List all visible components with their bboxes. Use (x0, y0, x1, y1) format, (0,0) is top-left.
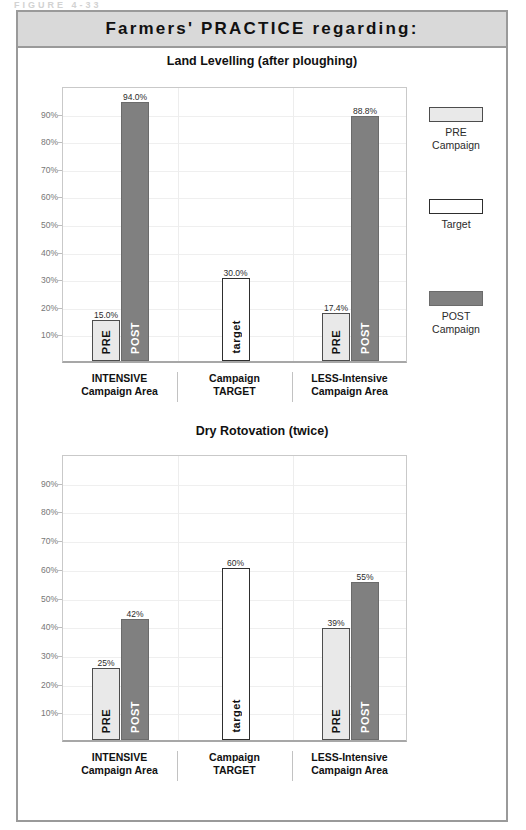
legend-label: PRE (410, 126, 502, 139)
x-axis-category-label: LESS-IntensiveCampaign Area (311, 751, 388, 777)
x-axis-separator (292, 751, 293, 781)
bar-series-label: POST (359, 701, 371, 733)
y-axis-tick-label: 50% (41, 594, 58, 604)
legend-label: POST (410, 310, 502, 323)
bar-pre[interactable]: PRE (322, 313, 350, 361)
category-separator (178, 88, 179, 361)
category-separator (293, 88, 294, 361)
legend-item-post[interactable]: POSTCampaign (410, 291, 502, 336)
y-axis-tick-label: 20% (41, 680, 58, 690)
y-axis-tick-label: 70% (41, 165, 58, 175)
bar-series-label: PRE (330, 709, 342, 733)
y-axis-tick-label: 40% (41, 248, 58, 258)
y-axis: 10%20%30%40%50%60%70%80%90% (24, 455, 62, 742)
x-axis-category-label: LESS-IntensiveCampaign Area (311, 372, 388, 398)
bar-value-label: 55% (356, 572, 373, 582)
bar-value-label: 60% (227, 558, 244, 568)
y-axis: 10%20%30%40%50%60%70%80%90% (24, 87, 62, 363)
bar-series-label: PRE (100, 330, 112, 354)
legend-item-target[interactable]: Target (410, 199, 502, 231)
y-axis-tick-label: 70% (41, 536, 58, 546)
legend-swatch-pre (429, 107, 483, 122)
bar-series-label: target (230, 320, 242, 354)
bar-series-label: target (230, 699, 242, 733)
bar-post[interactable]: POST (351, 582, 379, 740)
x-axis-separator (292, 372, 293, 402)
y-axis-tick-label: 60% (41, 192, 58, 202)
bar-series-label: POST (129, 701, 141, 733)
x-axis-category-line: LESS-Intensive (311, 372, 388, 385)
bar-value-label: 25% (97, 658, 114, 668)
y-axis-tick-label: 90% (41, 110, 58, 120)
category-separator (293, 456, 294, 740)
legend-item-pre[interactable]: PRECampaign (410, 107, 502, 152)
y-axis-tick-label: 50% (41, 220, 58, 230)
y-axis-tick-label: 90% (41, 479, 58, 489)
y-axis-tick-label: 80% (41, 507, 58, 517)
plot-area-wrapper: 10%20%30%40%50%60%70%80%90%PRE25%POST42%… (24, 455, 407, 742)
x-axis-category-label: CampaignTARGET (209, 372, 260, 398)
x-axis-category-label: INTENSIVECampaign Area (81, 372, 158, 398)
x-axis-category-line: Campaign Area (311, 764, 388, 777)
bar-series-label: PRE (100, 709, 112, 733)
bar-series-label: POST (359, 322, 371, 354)
y-axis-tick-label: 40% (41, 622, 58, 632)
x-axis-category-line: Campaign Area (311, 385, 388, 398)
x-axis-category-line: INTENSIVE (81, 372, 158, 385)
x-axis-category-line: LESS-Intensive (311, 751, 388, 764)
chart-title: Land Levelling (after ploughing) (18, 54, 506, 68)
bar-target[interactable]: target (222, 568, 250, 740)
chart-legend: PRECampaignTargetPOSTCampaign (410, 107, 506, 347)
bar-pre[interactable]: PRE (322, 628, 350, 740)
bar-value-label: 30.0% (223, 268, 247, 278)
bar-value-label: 88.8% (353, 106, 377, 116)
gridline (63, 513, 406, 514)
bar-pre[interactable]: PRE (92, 668, 120, 740)
bar-series-label: PRE (330, 330, 342, 354)
x-axis-category-label: CampaignTARGET (209, 751, 260, 777)
x-axis: INTENSIVECampaign AreaCampaignTARGETLESS… (62, 751, 407, 783)
bar-value-label: 39% (327, 618, 344, 628)
banner: Farmers' PRACTICE regarding: (18, 12, 506, 48)
x-axis-category-line: Campaign Area (81, 764, 158, 777)
y-axis-tick-label: 20% (41, 303, 58, 313)
banner-title: Farmers' PRACTICE regarding: (105, 19, 418, 39)
plot-area: PRE25%POST42%target60%PRE39%POST55% (62, 455, 407, 742)
bar-value-label: 94.0% (123, 92, 147, 102)
gridline (63, 485, 406, 486)
y-axis-tick-label: 30% (41, 275, 58, 285)
x-axis-separator (177, 751, 178, 781)
x-axis-category-line: TARGET (209, 385, 260, 398)
legend-label: Target (410, 218, 502, 231)
x-axis-category-line: Campaign (209, 751, 260, 764)
bar-value-label: 42% (126, 609, 143, 619)
y-axis-tick-label: 10% (41, 330, 58, 340)
legend-label: Campaign (410, 323, 502, 336)
figure-frame: Farmers' PRACTICE regarding: Land Levell… (16, 10, 508, 822)
x-axis-category-line: TARGET (209, 764, 260, 777)
x-axis: INTENSIVECampaign AreaCampaignTARGETLESS… (62, 372, 407, 404)
legend-swatch-target (429, 199, 483, 214)
x-axis-category-label: INTENSIVECampaign Area (81, 751, 158, 777)
figure-caption: FIGURE 4-33 (14, 0, 102, 10)
bar-post[interactable]: POST (351, 116, 379, 361)
bar-pre[interactable]: PRE (92, 320, 120, 361)
x-axis-category-line: Campaign (209, 372, 260, 385)
y-axis-tick-label: 30% (41, 651, 58, 661)
gridline (63, 542, 406, 543)
x-axis-category-line: Campaign Area (81, 385, 158, 398)
bar-post[interactable]: POST (121, 619, 149, 740)
plot-area-wrapper: 10%20%30%40%50%60%70%80%90%PRE15.0%POST9… (24, 87, 407, 363)
y-axis-tick-label: 10% (41, 708, 58, 718)
legend-label: Campaign (410, 139, 502, 152)
y-axis-tick-label: 80% (41, 137, 58, 147)
legend-swatch-post (429, 291, 483, 306)
bar-target[interactable]: target (222, 278, 250, 361)
bar-post[interactable]: POST (121, 102, 149, 361)
plot-area: PRE15.0%POST94.0%target30.0%PRE17.4%POST… (62, 87, 407, 363)
bar-value-label: 17.4% (324, 303, 348, 313)
y-axis-tick-label: 60% (41, 565, 58, 575)
x-axis-separator (177, 372, 178, 402)
bar-value-label: 15.0% (94, 310, 118, 320)
x-axis-category-line: INTENSIVE (81, 751, 158, 764)
